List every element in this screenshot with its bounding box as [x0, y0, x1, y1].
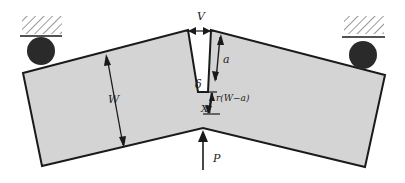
bend-specimen-diagram: V a δ X r(W−a) W P	[0, 0, 405, 183]
crack-opening-dimension: V	[186, 10, 214, 35]
label-p: P	[212, 152, 221, 165]
right-support	[342, 16, 385, 69]
diagram-canvas: V a δ X r(W−a) W P	[0, 0, 405, 183]
label-r-w-a: r(W−a)	[216, 93, 250, 103]
label-delta: δ	[195, 78, 202, 91]
label-x: X	[200, 103, 209, 114]
left-support	[20, 16, 62, 65]
arrow-right-icon	[203, 27, 211, 35]
label-v: V	[197, 10, 206, 23]
label-w: W	[108, 93, 121, 106]
load-arrow: P	[198, 130, 221, 170]
arrow-up-icon	[198, 130, 208, 142]
right-roller-icon	[349, 41, 377, 69]
right-support-hatching-icon	[344, 16, 384, 34]
left-support-hatching-icon	[22, 16, 62, 34]
left-roller-icon	[27, 37, 55, 65]
specimen-body	[23, 30, 385, 167]
label-a: a	[223, 53, 230, 66]
